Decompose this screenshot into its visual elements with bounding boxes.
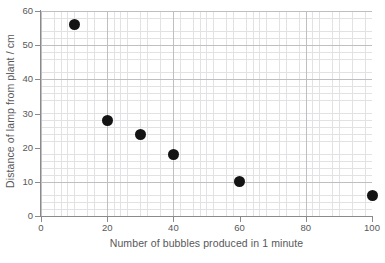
y-axis-tick [35,11,40,12]
y-axis-tick-label: 40 [22,74,33,84]
data-point [168,149,179,160]
y-axis-tick-label: 50 [22,40,33,50]
x-axis-tick-label: 20 [102,223,113,233]
y-axis-line [40,10,41,217]
y-axis-tick-label: 20 [22,143,33,153]
y-axis-tick [35,148,40,149]
y-axis-tick [35,216,40,217]
x-axis-tick-label: 40 [168,223,179,233]
data-point [367,190,378,201]
y-axis-tick [35,79,40,80]
x-axis-line [40,216,373,217]
x-axis-tick-label: 100 [364,223,380,233]
y-axis-tick-label: 60 [22,6,33,16]
data-point [102,115,113,126]
plot-area [41,11,372,216]
data-point [69,19,80,30]
y-axis-title-text: Distance of lamp from plant / cm [4,34,16,188]
y-axis-tick [35,114,40,115]
y-axis-title: Distance of lamp from plant / cm [0,0,20,222]
y-axis-tick-label: 30 [22,109,33,119]
y-axis-tick-label: 0 [28,211,33,221]
data-point [135,129,146,140]
y-axis-tick-label: 10 [22,177,33,187]
scatter-chart: Distance of lamp from plant / cm 0102030… [0,0,385,263]
x-axis-tick-label: 0 [38,223,43,233]
x-axis-title: Number of bubbles produced in 1 minute [41,237,372,249]
x-axis-tick-label: 80 [301,223,312,233]
x-axis-tick-label: 60 [234,223,245,233]
y-axis-tick [35,45,40,46]
y-axis-tick [35,182,40,183]
